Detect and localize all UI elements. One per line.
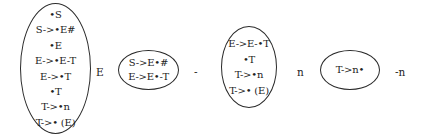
lr-item: T->• (E) [36, 115, 76, 130]
lr-item: T->• (E) [229, 83, 269, 99]
lr-item: E->•T [40, 69, 71, 84]
lr-item: •T [49, 84, 61, 99]
remaining-input-label: -n [395, 66, 405, 78]
lr-item: E->E-•T [228, 36, 269, 52]
item-set-state-2: E->E-•T •T T->•n T->• (E) [221, 26, 277, 108]
transition-label-e: E [96, 66, 104, 78]
lr-item: T->n• [336, 62, 364, 78]
lr-item: S->E•# [129, 56, 168, 70]
item-set-state-1: S->E•# E->E•-T [118, 50, 179, 90]
lr-item: •T [243, 52, 255, 68]
lr-item: S->•E# [36, 22, 75, 37]
item-set-state-0: •S S->•E# •E E->•E-T E->•T •T T->•n T->•… [20, 3, 91, 134]
lr-item: T->•n [41, 99, 69, 114]
lr-item: •E [49, 38, 62, 53]
lr-item: E->E•-T [128, 70, 169, 84]
transition-label-minus: - [194, 66, 198, 78]
lr-item: E->•E-T [35, 53, 76, 68]
lr-item: T->•n [235, 67, 263, 83]
transition-label-n: n [297, 66, 304, 78]
item-set-state-3: T->n• [320, 50, 380, 90]
lr-item: •S [49, 7, 61, 22]
